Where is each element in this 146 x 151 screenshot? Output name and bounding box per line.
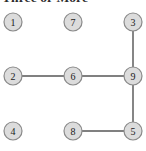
three-or-more-figure: Three or More 173269485	[0, 0, 146, 151]
node-label-7: 7	[71, 17, 76, 28]
node-label-9: 9	[131, 71, 136, 82]
graph-canvas: 173269485	[0, 0, 146, 151]
node-label-8: 8	[71, 126, 76, 137]
graph-node-7[interactable]: 7	[64, 13, 82, 31]
graph-node-1[interactable]: 1	[4, 13, 22, 31]
graph-node-2[interactable]: 2	[4, 67, 22, 85]
graph-node-4[interactable]: 4	[4, 122, 22, 140]
node-label-3: 3	[131, 17, 136, 28]
node-label-4: 4	[11, 126, 16, 137]
node-label-6: 6	[71, 71, 76, 82]
graph-node-5[interactable]: 5	[124, 122, 142, 140]
graph-node-3[interactable]: 3	[124, 13, 142, 31]
node-label-1: 1	[11, 17, 16, 28]
graph-node-8[interactable]: 8	[64, 122, 82, 140]
node-label-2: 2	[11, 71, 16, 82]
graph-node-9[interactable]: 9	[124, 67, 142, 85]
node-label-5: 5	[131, 126, 136, 137]
graph-node-6[interactable]: 6	[64, 67, 82, 85]
